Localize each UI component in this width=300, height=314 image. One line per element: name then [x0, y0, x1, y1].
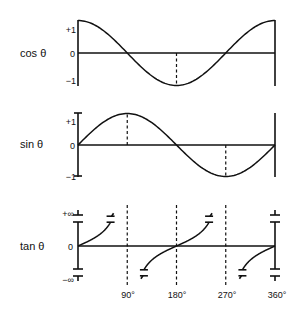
- xtick-180: 180°: [168, 290, 187, 300]
- xtick-360: 360°: [268, 290, 287, 300]
- xtick-270: 270°: [218, 290, 237, 300]
- sin-ytick-0: 0: [70, 141, 75, 151]
- tan-ytick-0: 0: [68, 242, 73, 252]
- tan-curve-270-360: [242, 246, 275, 270]
- sin-ytick-minus1: −1: [66, 172, 76, 182]
- sin-label: sin θ: [20, 138, 43, 150]
- cos-ytick-0: 0: [70, 49, 75, 59]
- tan-curve-90-180-lower: [144, 246, 177, 270]
- cos-label: cos θ: [20, 47, 46, 59]
- tan-label: tan θ: [20, 240, 44, 252]
- tan-ytick-minus-inf: −∞: [62, 275, 74, 285]
- xtick-90: 90°: [121, 290, 135, 300]
- cos-ytick-plus1: +1: [66, 25, 76, 35]
- cos-ytick-minus1: −1: [66, 76, 76, 86]
- tan-curve-0-90: [78, 222, 111, 246]
- trig-functions-diagram: cos θ sin θ tan θ +1 0 −1 +1 0 −1 +∞ 0 −…: [0, 0, 300, 314]
- tan-curve-180-270: [177, 222, 210, 246]
- sin-ytick-plus1: +1: [66, 117, 76, 127]
- tan-ytick-plus-inf: +∞: [62, 209, 74, 219]
